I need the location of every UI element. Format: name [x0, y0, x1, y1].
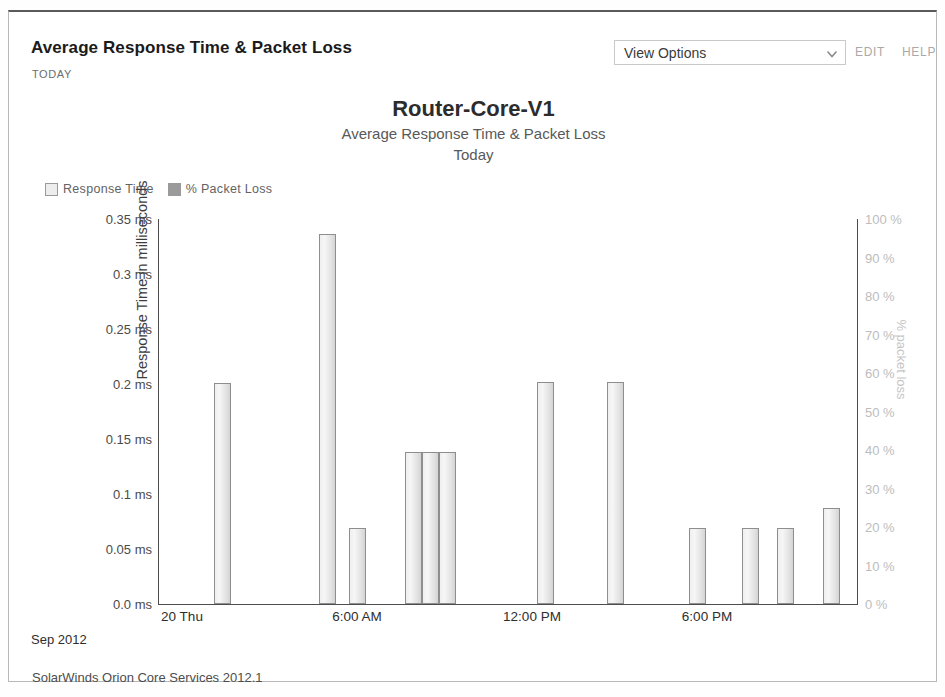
y-axis-tick-label: 0.0 ms	[113, 597, 152, 612]
legend-label: % Packet Loss	[186, 182, 273, 196]
y-axis-tick-label: 0.35 ms	[106, 212, 152, 227]
chart-bar[interactable]	[823, 508, 840, 604]
y2-axis-tick-label: 10 %	[865, 558, 895, 573]
footer-text: SolarWinds Orion Core Services 2012.1	[32, 670, 263, 685]
y-axis-tick-label: 0.3 ms	[113, 267, 152, 282]
y-axis-line	[158, 219, 159, 605]
y2-axis-tick-label: 20 %	[865, 520, 895, 535]
chart-bar[interactable]	[607, 382, 624, 604]
y2-axis-tick-label: 50 %	[865, 404, 895, 419]
chart-bar[interactable]	[742, 528, 759, 604]
y-axis-tick-label: 0.05 ms	[106, 542, 152, 557]
y-axis-tick-label: 0.2 ms	[113, 377, 152, 392]
resource-panel: Average Response Time & Packet Loss TODA…	[8, 10, 937, 682]
y2-axis-line	[857, 219, 858, 605]
y2-axis-tick-label: 100 %	[865, 212, 902, 227]
chart-bar[interactable]	[777, 528, 794, 604]
y2-axis-tick-label: 60 %	[865, 366, 895, 381]
y2-axis-tick-label: 0 %	[865, 597, 887, 612]
y-axis-tick-label: 0.25 ms	[106, 322, 152, 337]
chart-legend: Response Time% Packet Loss	[45, 182, 272, 196]
x-axis-tick-label: 6:00 AM	[332, 609, 382, 624]
y2-axis-tick-label: 80 %	[865, 289, 895, 304]
chart-bar[interactable]	[405, 452, 422, 604]
y2-axis-ticks: 0 %10 %20 %30 %40 %50 %60 %70 %80 %90 %1…	[865, 219, 925, 605]
chart-bar[interactable]	[319, 234, 336, 604]
chart-title: Router-Core-V1	[9, 96, 938, 122]
x-axis-line	[158, 604, 858, 605]
y-axis-tick-label: 0.1 ms	[113, 487, 152, 502]
legend-item: % Packet Loss	[168, 182, 273, 196]
chart-bar[interactable]	[689, 528, 706, 604]
y2-axis-tick-label: 70 %	[865, 327, 895, 342]
x-axis-tick-label: 6:00 PM	[682, 609, 732, 624]
plot-area	[158, 219, 858, 604]
chart: Router-Core-V1 Average Response Time & P…	[9, 12, 938, 684]
legend-swatch-icon	[168, 183, 181, 196]
y2-axis-tick-label: 90 %	[865, 250, 895, 265]
y2-axis-tick-label: 40 %	[865, 443, 895, 458]
chart-bar[interactable]	[349, 528, 366, 604]
chart-bar[interactable]	[422, 452, 439, 604]
y-axis-ticks: 0.0 ms0.05 ms0.1 ms0.15 ms0.2 ms0.25 ms0…	[49, 219, 152, 605]
chart-bar[interactable]	[537, 382, 554, 604]
y2-axis-tick-label: 30 %	[865, 481, 895, 496]
x-axis-date: Sep 2012	[31, 632, 87, 647]
x-axis-tick-label: 12:00 PM	[503, 609, 561, 624]
x-axis-tick-label: 20 Thu	[161, 609, 203, 624]
chart-bar[interactable]	[214, 383, 231, 604]
screenshot-root: Average Response Time & Packet Loss TODA…	[0, 0, 945, 697]
legend-swatch-icon	[45, 183, 58, 196]
y-axis-tick-label: 0.15 ms	[106, 432, 152, 447]
chart-bar[interactable]	[439, 452, 456, 604]
